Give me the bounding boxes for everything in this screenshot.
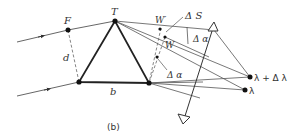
point-lambda-plus — [248, 75, 253, 80]
point-bottom-right — [146, 80, 151, 85]
figure-caption: (b) — [107, 122, 120, 132]
arrow-down-icon — [178, 114, 190, 124]
point-W-prime — [158, 27, 161, 30]
label-b: b — [110, 86, 116, 97]
label-lambda-plus-delta: λ + Δ λ — [254, 73, 288, 83]
label-F: F — [63, 15, 72, 26]
label-W-prime: W′ — [155, 15, 166, 25]
point-W — [163, 35, 166, 38]
label-T: T — [111, 6, 119, 17]
arrow-up-icon — [208, 22, 218, 31]
delta-alpha-marker — [187, 27, 188, 44]
point-angle — [156, 56, 159, 59]
wavefront-w — [149, 37, 165, 83]
label-W: W — [165, 40, 175, 50]
label-delta-alpha-top: Δ α — [192, 34, 208, 44]
label-delta-s: Δ S — [184, 10, 202, 21]
label-lambda: λ — [249, 86, 255, 96]
point-bottom-left — [76, 79, 81, 84]
point-lambda — [243, 88, 248, 93]
point-F — [66, 28, 71, 33]
delta-s-leader — [166, 17, 183, 32]
prism-triangle — [79, 21, 149, 83]
prism-dispersion-diagram: F T d b W′ W Δ S Δ α Δ α λ + Δ λ λ (b) — [0, 0, 304, 140]
label-d: d — [63, 52, 69, 63]
label-delta-alpha-side: Δ α — [166, 70, 182, 80]
point-T — [112, 18, 117, 23]
delta-alpha-leader — [158, 59, 167, 70]
wavefront-d — [68, 30, 79, 82]
